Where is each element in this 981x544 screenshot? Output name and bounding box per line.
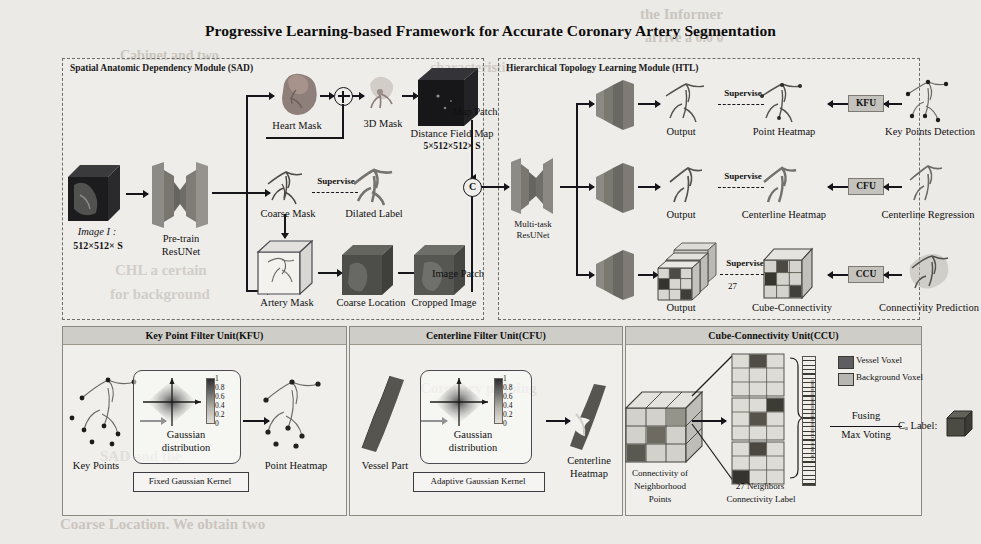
multitask-resunet-icon <box>509 158 557 216</box>
input-image-label-2: 512×512× S <box>58 240 138 251</box>
cfu-tag[interactable]: CFU <box>848 178 884 195</box>
cfu-colorbar <box>494 378 503 424</box>
distance-field-label-2: 5×512×512× S <box>406 141 498 152</box>
branch1-point-heatmap <box>756 82 810 126</box>
ccu-neighbors-label-2: Connectivity Label <box>706 494 816 504</box>
branch2-output-vessel <box>662 166 712 208</box>
coarse-mask-label: Coarse Mask <box>252 208 324 220</box>
cfu-output-label-1: Centerline <box>556 455 622 467</box>
ccu-bracket <box>788 356 802 484</box>
cfu-kernel-type-label: Adaptive Gaussian Kernel <box>413 476 543 486</box>
multitask-resunet-label-1: Multi-task <box>500 219 566 229</box>
branch1-output-tree <box>660 82 714 126</box>
ccu-legend-label-background: Background Voxel <box>856 372 923 382</box>
artery-mask-label: Artery Mask <box>252 297 322 309</box>
cfu-vessel-part-icon <box>356 372 412 452</box>
kfu-colorbar <box>206 378 215 424</box>
ccu-input-label-3: Points <box>612 494 708 504</box>
kfu-kernel-type-label: Fixed Gaussian Kernel <box>133 476 247 486</box>
branch3-output-stack <box>656 242 728 304</box>
kfu-kernel-label-2: distribution <box>144 442 228 454</box>
distance-field-map-cube <box>418 68 480 128</box>
pretrain-resunet-icon <box>150 160 210 230</box>
cube-connectivity-icon <box>762 246 822 302</box>
dilated-label-text: Dilated Label <box>336 208 412 220</box>
ccu-connectivity-bits: 0100111010001010011010010011001010010010 <box>805 360 815 480</box>
htl-module-title: Hierarchical Topology Learning Module (H… <box>506 63 698 73</box>
coarse-location-cube <box>342 245 396 297</box>
cfu-colorbar-tick: 0 <box>503 420 507 428</box>
distance-field-label-1: Distance Field Map <box>406 128 498 140</box>
sad-module-title: Spatial Anatomic Dependency Module (SAD) <box>70 63 253 73</box>
branch3-target-label: Cube-Connectivity <box>734 302 850 314</box>
branch-decoder-2 <box>594 163 636 213</box>
kfu-colorbar-tick: 0 <box>215 420 219 428</box>
ccu-tag[interactable]: CCU <box>848 266 884 283</box>
branch3-output-label: Output <box>650 302 712 314</box>
cfu-kernel-label-2: distribution <box>430 442 516 454</box>
ccu-legend-swatch-background <box>838 373 854 386</box>
branch1-output-label: Output <box>650 126 712 138</box>
ccu-fusing-label-2: Max Voting <box>826 429 906 441</box>
ghost-text: Coarse Location. We obtain two <box>60 516 265 533</box>
pretrain-resunet-label-1: Pre-train <box>145 233 217 245</box>
ccu-panel-title: Cube-Connectivity Unit(CCU) <box>626 327 921 345</box>
cfu-input-label: Vessel Part <box>348 460 422 472</box>
3d-mask-label: 3D Mask <box>356 118 410 130</box>
ccu-fusing-label-1: Fusing <box>830 410 902 422</box>
input-image-volume <box>68 165 124 223</box>
coarse-mask-icon <box>264 168 312 208</box>
kfu-input-label: Key Points <box>60 460 132 472</box>
kfu-point-heatmap-icon <box>256 376 340 452</box>
branch2-target-label: Centerline Heatmap <box>736 209 832 221</box>
branch2-source-label: Centerline Regression <box>876 209 980 221</box>
pretrain-resunet-label-2: ResUNet <box>145 246 217 258</box>
multitask-resunet-label-2: ResUNet <box>500 230 566 240</box>
ccu-neighbor-slices <box>730 352 788 488</box>
map-patch-label: Map Patch <box>444 106 506 118</box>
branch1-source-label: Key Points Detection <box>880 126 980 138</box>
figure-canvas: the Informer arrive a 0.0 0 Cabinet and … <box>0 0 981 544</box>
input-image-label-1: Image I : <box>62 226 132 238</box>
ccu-result-voxel <box>946 410 974 438</box>
image-patch-label: Image Patch <box>424 268 492 280</box>
kfu-kernel-label-1: Gaussian <box>144 429 228 441</box>
branch-decoder-3 <box>594 250 636 300</box>
ccu-legend-label-vessel: Vessel Voxel <box>856 355 902 365</box>
branch1-target-label: Point Heatmap <box>742 126 826 138</box>
cfu-panel-title: Centerline Filter Unit(CFU) <box>350 327 622 345</box>
cfu-centerline-heatmap-icon <box>564 382 614 452</box>
branch3-source-label: Connectivity Prediction <box>876 302 981 314</box>
dilated-label-icon <box>348 166 400 208</box>
branch3-connectivity-prediction-icon <box>898 248 956 300</box>
3d-mask-icon <box>362 72 402 118</box>
branch2-centerline-heatmap <box>756 166 806 208</box>
kfu-panel-title: Key Point Filter Unit(KFU) <box>63 327 346 345</box>
branch-decoder-1 <box>594 80 636 130</box>
ccu-result-label: Cₐ Label: <box>898 420 937 432</box>
cfu-gaussian-plot <box>428 376 490 428</box>
heart-mask-icon <box>274 70 320 118</box>
branch2-output-label: Output <box>650 209 712 221</box>
kfu-output-label: Point Heatmap <box>250 460 342 472</box>
ccu-legend-swatch-vessel <box>838 356 854 369</box>
artery-mask-cube <box>258 240 316 296</box>
branch3-stack-count: 27 <box>728 281 737 291</box>
cropped-image-label: Cropped Image <box>404 297 484 309</box>
ghost-text: the Informer <box>640 6 723 23</box>
heart-mask-label: Heart Mask <box>266 120 328 132</box>
kfu-gaussian-plot <box>141 376 203 428</box>
kfu-tag[interactable]: KFU <box>848 95 884 112</box>
concat-node: C <box>463 178 482 197</box>
coarse-location-label: Coarse Location <box>330 297 412 309</box>
cfu-kernel-label-1: Gaussian <box>430 429 516 441</box>
figure-title: Progressive Learning-based Framework for… <box>0 22 981 40</box>
branch2-centerline-regression-icon <box>900 162 954 208</box>
branch1-keypoints-icon <box>900 78 956 128</box>
